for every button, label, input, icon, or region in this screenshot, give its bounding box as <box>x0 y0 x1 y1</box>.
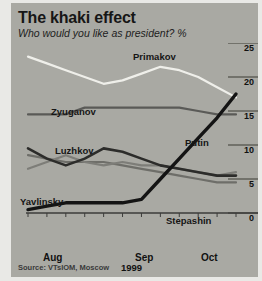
series-label-primakov: Primakov <box>133 51 176 62</box>
page-margin-left <box>0 0 11 281</box>
page-margin-bottom <box>0 277 262 281</box>
plot-area <box>14 43 258 248</box>
chart-title: The khaki effect <box>18 9 136 27</box>
x-tick-oct: Oct <box>201 252 218 263</box>
series-label-yavlinsky: Yavlinsky <box>20 196 63 207</box>
source-note: Source: VTsIOM, Moscow <box>18 263 109 272</box>
series-label-luzhkov: Luzhkov <box>55 145 94 156</box>
chart-figure: The khaki effect Who would you like as p… <box>0 0 262 281</box>
y-tick-0: 0 <box>236 213 254 223</box>
series-label-zyuganov: Zyuganov <box>51 106 96 117</box>
y-tick-20: 20 <box>236 77 254 87</box>
series-label-putin: Putin <box>185 137 209 148</box>
chart-subtitle: Who would you like as president? % <box>18 27 187 39</box>
x-tick-aug: Aug <box>43 252 62 263</box>
y-tick-5: 5 <box>236 179 254 189</box>
y-tick-25: 25 <box>236 43 254 53</box>
x-axis-year: 1999 <box>121 262 142 273</box>
line-chart-svg <box>14 43 258 248</box>
y-tick-10: 10 <box>236 145 254 155</box>
chart-panel: The khaki effect Who would you like as p… <box>11 3 258 277</box>
y-tick-15: 15 <box>236 111 254 121</box>
series-label-stepashin: Stepashin <box>166 215 211 226</box>
page-margin-right <box>258 0 262 281</box>
